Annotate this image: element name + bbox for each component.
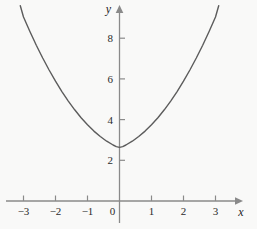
origin-label: 0 xyxy=(110,205,116,217)
y-tick-label-6: 6 xyxy=(108,73,114,85)
x-tick-label-neg2: −2 xyxy=(50,205,62,217)
y-axis-label: y xyxy=(105,2,112,16)
y-tick-label-8: 8 xyxy=(108,32,114,44)
y-tick-label-4: 4 xyxy=(108,114,114,126)
x-tick-label-2: 2 xyxy=(181,205,187,217)
y-axis-arrowhead xyxy=(116,5,124,13)
y-tick-label-2: 2 xyxy=(108,154,114,166)
x-tick-label-neg3: −3 xyxy=(18,205,30,217)
x-tick-label-neg1: −1 xyxy=(82,205,94,217)
plot-canvas: −3 −2 −1 1 2 3 0 2 4 6 8 y x xyxy=(0,0,257,229)
x-axis-label: x xyxy=(237,205,244,219)
y-axis-ticks xyxy=(120,38,126,160)
x-axis-arrowhead xyxy=(235,197,243,205)
parabola-figure: −3 −2 −1 1 2 3 0 2 4 6 8 y x xyxy=(0,0,257,229)
x-tick-label-3: 3 xyxy=(213,205,219,217)
x-tick-label-1: 1 xyxy=(149,205,155,217)
